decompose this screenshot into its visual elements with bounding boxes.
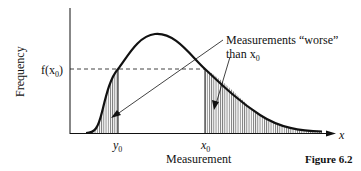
y-axis-label: Frequency xyxy=(14,46,26,97)
figure-caption: Figure 6.2 xyxy=(305,153,352,165)
left-shaded-area xyxy=(88,69,118,133)
x-axis-symbol: x xyxy=(339,129,344,141)
annotation-text: Measurements “worse” than x0 xyxy=(226,33,338,66)
fx0-label: f(x0) xyxy=(41,64,63,81)
right-shaded-area xyxy=(205,69,322,133)
y0-label: y0 xyxy=(113,139,122,156)
x-axis-label: Measurement xyxy=(166,153,231,165)
x-axis-arrowhead xyxy=(326,131,336,137)
distribution-diagram xyxy=(0,0,361,171)
